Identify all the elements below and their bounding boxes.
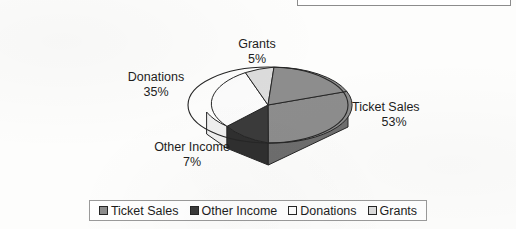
legend-swatch-grants [368, 206, 377, 215]
legend-label-grants: Grants [380, 204, 418, 218]
callout-other-income-percent: 7% [138, 155, 246, 170]
callout-other-income-label: Other Income [154, 140, 230, 154]
legend-item-donations: Donations [288, 204, 356, 218]
callout-grants-label: Grants [238, 37, 276, 51]
callout-grants: Grants 5% [215, 37, 299, 67]
legend-item-other-income: Other Income [190, 204, 278, 218]
callout-donations: Donations 35% [108, 70, 204, 100]
callout-ticket-sales: Ticket Sales 53% [352, 100, 448, 130]
legend-label-other-income: Other Income [202, 204, 278, 218]
legend-item-grants: Grants [368, 204, 418, 218]
callout-donations-percent: 35% [108, 85, 204, 100]
legend-swatch-other-income [190, 206, 199, 215]
callout-donations-label: Donations [128, 70, 184, 84]
legend-item-ticket-sales: Ticket Sales [99, 204, 179, 218]
chart-page: p y [0, 0, 516, 229]
legend-label-donations: Donations [300, 204, 356, 218]
callout-ticket-sales-percent: 53% [352, 115, 436, 130]
chart-legend: Ticket Sales Other Income Donations Gran… [89, 200, 427, 221]
legend-label-ticket-sales: Ticket Sales [111, 204, 179, 218]
legend-swatch-donations [288, 206, 297, 215]
callout-other-income: Other Income 7% [138, 140, 246, 170]
legend-swatch-ticket-sales [99, 206, 108, 215]
callout-grants-percent: 5% [215, 52, 299, 67]
callout-ticket-sales-label: Ticket Sales [352, 100, 420, 114]
